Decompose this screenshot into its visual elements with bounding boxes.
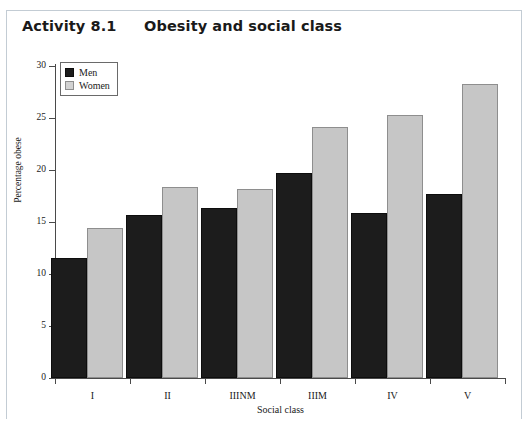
- page-container: Activity 8.1 Obesity and social class 05…: [0, 0, 528, 421]
- bar-i-women: [87, 228, 123, 378]
- y-tick-label: 10: [20, 269, 46, 279]
- x-axis-title: Social class: [55, 404, 506, 415]
- bar-v-men: [426, 194, 462, 378]
- y-tick-label: 5: [20, 321, 46, 331]
- x-tick: [205, 378, 206, 384]
- bar-iiinm-men: [201, 208, 237, 378]
- bar-chart: 051015202530 IIIIIINMIIIMIVV Percentage …: [0, 0, 528, 421]
- x-tick: [355, 378, 356, 384]
- y-tick-label-text: 30: [22, 61, 46, 71]
- y-tick-label-text: 15: [22, 217, 46, 227]
- x-tick-label: V: [423, 390, 513, 401]
- x-tick: [55, 378, 56, 384]
- y-tick-label: 20: [20, 165, 46, 175]
- legend-label-women: Women: [79, 80, 110, 91]
- legend-label-men: Men: [79, 67, 97, 78]
- y-axis-title: Percentage obese: [13, 110, 23, 230]
- chart-legend: Men Women: [60, 62, 118, 96]
- legend-swatch-men-icon: [65, 68, 74, 77]
- y-tick-label-text: 10: [22, 269, 46, 279]
- x-tick: [130, 378, 131, 384]
- x-tick: [430, 378, 431, 384]
- bar-i-men: [51, 258, 87, 378]
- y-tick-label: 30: [20, 61, 46, 71]
- x-tick: [280, 378, 281, 384]
- bar-v-women: [462, 84, 498, 378]
- bar-ii-men: [126, 215, 162, 378]
- x-tick: [505, 378, 506, 384]
- y-tick-label-text: 5: [22, 321, 46, 331]
- legend-item-men: Men: [65, 66, 110, 79]
- bar-ii-women: [162, 187, 198, 378]
- y-tick-label-text: 25: [22, 113, 46, 123]
- bar-iv-women: [387, 115, 423, 378]
- y-tick-label: 25: [20, 113, 46, 123]
- bar-iv-men: [351, 213, 387, 378]
- plot-area: [55, 66, 505, 378]
- bar-iiinm-women: [237, 189, 273, 378]
- bar-iiim-women: [312, 127, 348, 378]
- y-tick-label: 0: [20, 373, 46, 383]
- y-tick-label-text: 20: [22, 165, 46, 175]
- legend-swatch-women-icon: [65, 81, 74, 90]
- y-tick-label-text: 0: [22, 373, 46, 383]
- bar-iiim-men: [276, 173, 312, 378]
- legend-item-women: Women: [65, 79, 110, 92]
- y-tick-label: 15: [20, 217, 46, 227]
